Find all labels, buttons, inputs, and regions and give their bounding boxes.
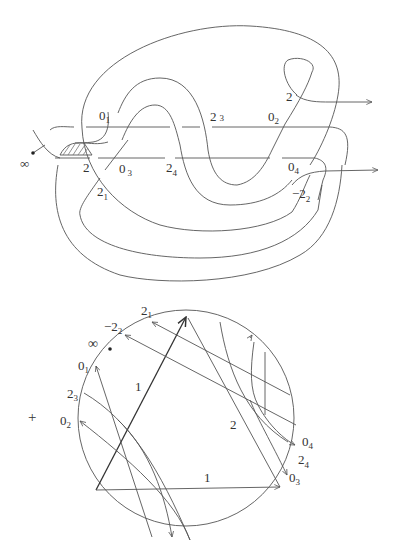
crossing-label-2_4: 24 [166, 160, 178, 178]
crossing-label-0_4: 04 [288, 159, 300, 176]
triangle-label-right: 2 [230, 417, 237, 432]
sign-label: + [28, 409, 36, 425]
crossing-label-neg2_2: −22 [292, 186, 310, 204]
knot-strand-left-arc [82, 128, 310, 231]
chord-neg2_2 [125, 335, 296, 425]
boundary-label-0_3: 03 [289, 470, 301, 487]
knot-strand-curl-exit [296, 95, 372, 102]
chord-right [188, 318, 280, 487]
chord-circle [78, 310, 294, 526]
boundary-label-0_2: 02 [60, 413, 71, 430]
chord-basepoint-dot [108, 347, 112, 351]
chord-2_3 [84, 393, 190, 540]
crossing-label-0_3: 03 [119, 161, 133, 178]
chord-to-0_4 [251, 342, 295, 445]
hatched-region [60, 143, 92, 155]
knot-strand-lower-band [55, 158, 326, 200]
basepoint-dot [31, 151, 35, 155]
knot-strand-basepoint [33, 130, 60, 158]
boundary-label-0_1: 01 [78, 358, 89, 375]
boundary-label-2_4: 24 [298, 452, 310, 470]
triangle-label-left: 1 [135, 379, 142, 394]
figure: ∞ 01 23 02 2 2 03 24 04 21 −22 [0, 0, 400, 552]
chord-basepoint-label: ∞ [88, 336, 98, 351]
crossing-label-0_2: 02 [268, 109, 279, 126]
triangle-label-bottom: 1 [204, 470, 211, 485]
chord-2_1 [152, 322, 290, 395]
knot-strand-upper-band [50, 127, 348, 165]
crossing-label-2-left: 2 [83, 160, 90, 175]
crossing-label-2_3: 23 [210, 109, 225, 124]
knot-strand-exit-lower [292, 170, 378, 185]
basepoint-leader [33, 145, 45, 153]
arrowhead-up-right [250, 335, 252, 338]
chord-bottom [96, 487, 280, 490]
boundary-label-0_4: 04 [302, 434, 314, 451]
crossing-label-2_1: 21 [97, 184, 108, 202]
chord-diagram: + ∞ 21 −22 01 23 02 04 24 03 1 1 2 [28, 303, 314, 540]
boundary-label-2_1: 21 [141, 303, 152, 320]
knot-basepoint-label: ∞ [20, 156, 29, 171]
knot-diagram: ∞ 01 23 02 2 2 03 24 04 21 −22 [20, 26, 378, 281]
knot-strand-outer-loop [82, 26, 339, 165]
boundary-label-2_3: 23 [67, 386, 79, 403]
knot-strand-inner-s2 [84, 105, 292, 205]
boundary-label-neg2_2: −22 [104, 319, 122, 336]
knot-strand-inner-s [118, 78, 285, 185]
chord-down [118, 420, 172, 537]
crossing-label-0_1: 01 [99, 108, 110, 125]
knot-strand-bottom-arc [56, 165, 342, 281]
crossing-label-2-top: 2 [286, 89, 293, 104]
